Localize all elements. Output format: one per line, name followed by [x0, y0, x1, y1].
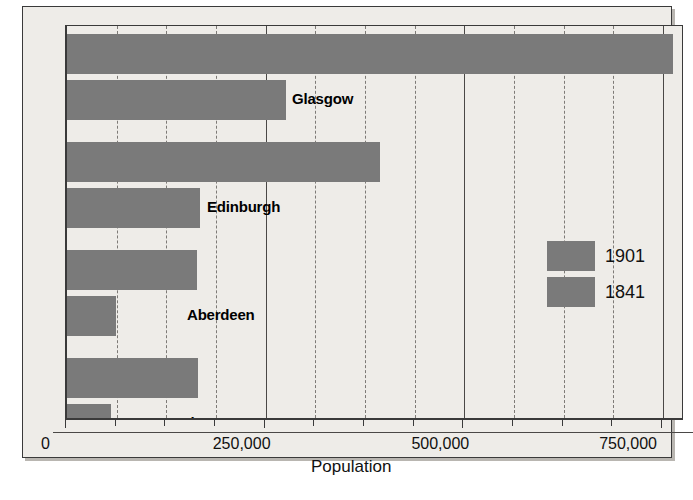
- x-tick: [264, 420, 265, 428]
- x-tick: [164, 420, 165, 426]
- bar-aberdeen-1901: [67, 250, 197, 290]
- gridline: [315, 26, 316, 418]
- gridline: [613, 26, 614, 418]
- x-tick-label-0: 0: [41, 435, 50, 453]
- x-tick-label-2: 500,000: [411, 435, 469, 453]
- legend-label-1841: 1841: [605, 282, 645, 303]
- gridline: [663, 26, 664, 418]
- bar-dundee-1841: [67, 404, 111, 420]
- x-tick-label-1: 250,000: [213, 435, 271, 453]
- plot-area: GlasgowEdinburghAberdeenDundee19011841: [65, 25, 683, 420]
- chart-outer-frame: GlasgowEdinburghAberdeenDundee19011841 0…: [22, 6, 672, 458]
- x-tick: [611, 420, 612, 426]
- gridline: [464, 26, 465, 418]
- bar-glasgow-1841: [67, 80, 286, 120]
- x-tick: [413, 420, 414, 426]
- bar-glasgow-1901: [67, 34, 673, 74]
- legend-label-1901: 1901: [605, 246, 645, 267]
- x-tick-label-3: 750,000: [599, 435, 657, 453]
- gridline: [415, 26, 416, 418]
- x-axis-baseline: [53, 432, 693, 433]
- city-label-glasgow: Glasgow: [292, 90, 353, 107]
- x-tick: [313, 420, 314, 426]
- bar-edinburgh-1901: [67, 142, 380, 182]
- gridline: [564, 26, 565, 418]
- x-tick: [462, 420, 463, 428]
- x-axis-tick-marks: [65, 420, 684, 428]
- city-label-edinburgh: Edinburgh: [207, 198, 280, 215]
- bar-dundee-1901: [67, 358, 198, 398]
- x-tick: [661, 420, 662, 428]
- x-tick: [115, 420, 116, 426]
- x-tick: [562, 420, 563, 426]
- city-label-aberdeen: Aberdeen: [187, 306, 255, 323]
- legend-swatch-1901: [547, 241, 595, 271]
- gridline: [365, 26, 366, 418]
- bar-aberdeen-1841: [67, 296, 116, 336]
- x-tick: [512, 420, 513, 426]
- gridline: [514, 26, 515, 418]
- x-tick: [214, 420, 215, 426]
- x-tick: [363, 420, 364, 426]
- legend-swatch-1841: [547, 277, 595, 307]
- bar-edinburgh-1841: [67, 188, 200, 228]
- x-axis-title: Population: [311, 457, 391, 477]
- x-tick: [65, 420, 66, 428]
